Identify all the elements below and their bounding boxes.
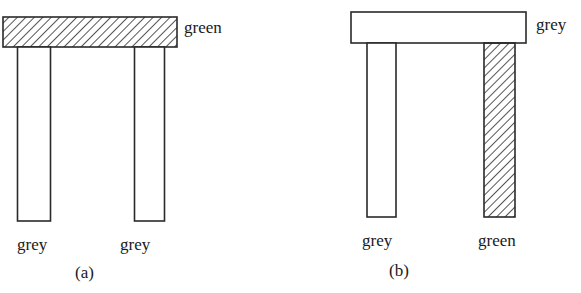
panel-a	[3, 17, 177, 221]
panel-b-caption: (b)	[389, 262, 409, 279]
panel-a-caption: (a)	[75, 264, 94, 281]
panel-b-top-bar-label: grey	[536, 16, 566, 33]
panel-b-right-leg	[484, 43, 515, 217]
panel-a-top-bar-label: green	[184, 19, 222, 36]
panel-b-right-leg-label: green	[478, 232, 516, 249]
panel-b-left-leg-label: grey	[362, 232, 392, 249]
panel-a-left-leg-label: grey	[17, 236, 47, 253]
panel-a-right-leg	[135, 47, 165, 221]
panel-b-left-leg	[367, 43, 396, 217]
panel-b-top-bar	[351, 12, 526, 43]
panel-a-right-leg-label: grey	[120, 236, 150, 253]
panel-a-left-leg	[18, 47, 51, 221]
panel-a-top-bar	[3, 17, 177, 47]
panel-b	[351, 12, 526, 217]
